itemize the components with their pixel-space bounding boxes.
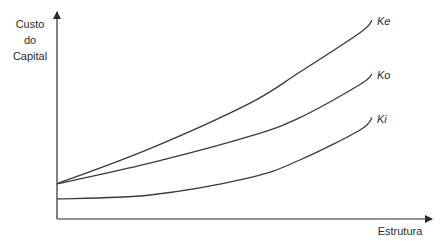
- series-line-ko: [57, 74, 372, 184]
- series-line-ke: [57, 20, 372, 184]
- series-label-ko: Ko: [377, 69, 390, 81]
- series-label-ki: Ki: [377, 113, 387, 125]
- y-axis-label-line-3: Capital: [13, 50, 47, 62]
- y-axis-label-line-2: do: [24, 34, 36, 46]
- series-label-ke: Ke: [377, 15, 390, 27]
- series-line-ki: [57, 118, 372, 199]
- series-layer: KeKoKi: [57, 15, 390, 199]
- x-axis-label: Estrutura: [378, 225, 424, 237]
- y-axis-label-line-1: Custo: [16, 18, 45, 30]
- cost-of-capital-chart: Custo do Capital Estrutura KeKoKi: [0, 0, 440, 241]
